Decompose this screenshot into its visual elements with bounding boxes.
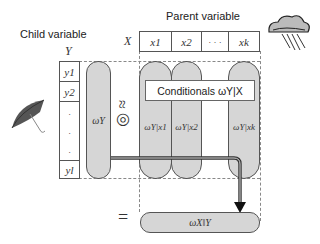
rain-cloud-icon: [0, 0, 320, 244]
